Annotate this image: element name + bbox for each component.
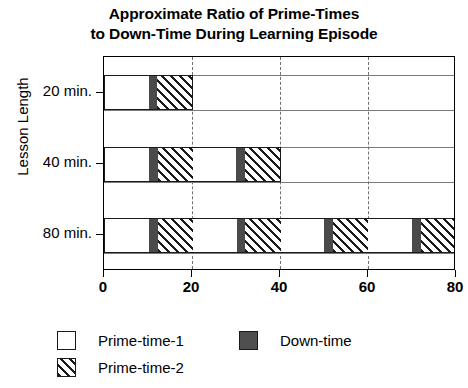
legend-swatch-down-time-icon — [239, 331, 258, 350]
bar-segment-prime-time-1 — [193, 148, 237, 181]
x-axis-label-80: 80 — [435, 278, 468, 295]
y-axis-tick-1 — [96, 163, 103, 164]
x-axis-label-40: 40 — [259, 278, 299, 295]
bar-segment-down-time — [149, 148, 158, 181]
bar-80-min- — [104, 218, 454, 253]
bar-segment-prime-time-1 — [368, 219, 412, 252]
bar-segment-prime-time-1 — [105, 219, 149, 252]
bar-segment-down-time — [412, 219, 421, 252]
bar-segment-down-time — [237, 219, 246, 252]
bar-segment-prime-time-1 — [193, 219, 237, 252]
bar-segment-prime-time-2 — [158, 219, 193, 252]
bar-segment-prime-time-2 — [421, 219, 454, 252]
x-axis-label-0: 0 — [83, 278, 123, 295]
x-axis-tick-80 — [455, 270, 456, 277]
bar-segment-down-time — [149, 76, 158, 109]
legend-swatch-prime-time-1-icon — [57, 331, 76, 350]
x-axis-tick-0 — [103, 270, 104, 277]
y-axis-category-label-0: 20 min. — [0, 82, 92, 99]
y-axis-tick-2 — [96, 234, 103, 235]
y-axis-category-label-2: 80 min. — [0, 224, 92, 241]
x-axis-label-20: 20 — [171, 278, 211, 295]
chart-container: Approximate Ratio of Prime-Times to Down… — [0, 0, 468, 388]
legend-row-1: Prime-time-1 Down-time — [57, 327, 457, 354]
bar-segment-prime-time-2 — [158, 148, 193, 181]
legend-item-down-time: Down-time — [239, 331, 352, 350]
bar-segment-prime-time-2 — [333, 219, 368, 252]
x-axis-tick-60 — [367, 270, 368, 277]
chart-legend: Prime-time-1 Down-time Prime-time-2 — [57, 327, 457, 381]
plot-inner — [104, 57, 454, 269]
bar-segment-prime-time-2 — [245, 219, 280, 252]
category-separator-line — [104, 110, 454, 111]
legend-label-down-time: Down-time — [280, 332, 352, 349]
plot-area — [103, 56, 455, 270]
legend-item-prime-time-2: Prime-time-2 — [57, 358, 239, 377]
bar-20-min- — [104, 75, 193, 110]
bar-segment-prime-time-1 — [281, 219, 325, 252]
legend-row-2: Prime-time-2 — [57, 354, 457, 381]
bar-segment-prime-time-1 — [105, 148, 149, 181]
x-axis-tick-40 — [279, 270, 280, 277]
bar-40-min- — [104, 147, 281, 182]
legend-label-prime-time-2: Prime-time-2 — [98, 359, 184, 376]
legend-label-prime-time-1: Prime-time-1 — [98, 332, 184, 349]
bar-segment-down-time — [236, 148, 245, 181]
category-separator-line — [104, 182, 454, 183]
bar-segment-down-time — [324, 219, 333, 252]
y-axis-category-label-1: 40 min. — [0, 153, 92, 170]
x-axis-tick-20 — [191, 270, 192, 277]
chart-title: Approximate Ratio of Prime-Times to Down… — [0, 4, 468, 44]
bar-segment-prime-time-2 — [157, 76, 192, 109]
x-axis-label-60: 60 — [347, 278, 387, 295]
y-axis-tick-0 — [96, 92, 103, 93]
bar-segment-prime-time-1 — [105, 76, 149, 109]
chart-title-line-1: Approximate Ratio of Prime-Times — [0, 4, 468, 24]
legend-swatch-prime-time-2-icon — [57, 358, 76, 377]
chart-title-line-2: to Down-Time During Learning Episode — [0, 24, 468, 44]
bar-segment-down-time — [149, 219, 158, 252]
bar-segment-prime-time-2 — [245, 148, 280, 181]
legend-item-prime-time-1: Prime-time-1 — [57, 331, 239, 350]
y-axis-title: Lesson Length — [14, 42, 31, 212]
category-separator-line — [104, 253, 454, 254]
